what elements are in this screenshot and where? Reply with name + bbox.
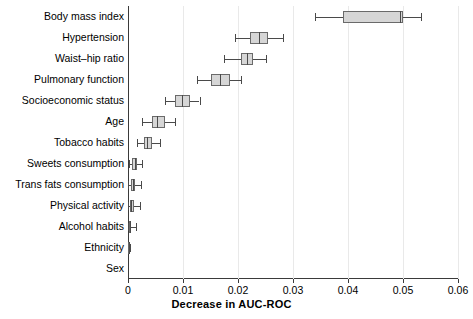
x-tick-label: 0.02 — [218, 284, 258, 296]
x-tick-label: 0.05 — [383, 284, 423, 296]
x-tick-label: 0.03 — [273, 284, 313, 296]
x-tick-mark — [348, 279, 349, 283]
x-tick-label: 0.01 — [163, 284, 203, 296]
x-tick-label: 0.04 — [328, 284, 368, 296]
x-tick-mark — [293, 279, 294, 283]
x-tick-label: 0.06 — [438, 284, 473, 296]
x-tick-mark — [128, 279, 129, 283]
x-axis-title: Decrease in AUC-ROC — [0, 298, 463, 310]
x-tick-mark — [458, 279, 459, 283]
x-tick-mark — [403, 279, 404, 283]
x-tick-label: 0 — [108, 284, 148, 296]
x-tick-mark — [238, 279, 239, 283]
x-tick-mark — [183, 279, 184, 283]
